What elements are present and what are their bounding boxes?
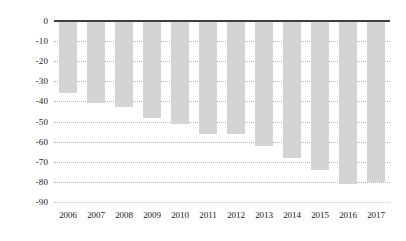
- x-axis-tick-label: 2013: [250, 210, 278, 220]
- y-axis-tick-label: -10: [0, 36, 48, 46]
- bar: [171, 21, 189, 124]
- y-axis-labels: 0-10-20-30-40-50-60-70-80-90: [0, 0, 48, 241]
- zero-axis-line: [54, 20, 390, 22]
- bar: [255, 21, 273, 146]
- x-axis-labels: 2006200720082009201020112012201320142015…: [54, 210, 390, 220]
- y-axis-tick-label: -40: [0, 96, 48, 106]
- bar-series: [54, 21, 390, 202]
- x-axis-tick-label: 2014: [278, 210, 306, 220]
- bar-slot: [362, 21, 390, 202]
- x-axis-tick-label: 2016: [334, 210, 362, 220]
- bar-slot: [138, 21, 166, 202]
- bar-slot: [82, 21, 110, 202]
- bar: [115, 21, 133, 107]
- bar-slot: [278, 21, 306, 202]
- bar: [143, 21, 161, 118]
- y-axis-tick-label: -90: [0, 197, 48, 207]
- bar: [227, 21, 245, 134]
- bar-slot: [194, 21, 222, 202]
- bar: [311, 21, 329, 170]
- bar: [199, 21, 217, 134]
- bar-slot: [166, 21, 194, 202]
- x-axis-tick-label: 2015: [306, 210, 334, 220]
- x-axis-tick-label: 2008: [110, 210, 138, 220]
- y-axis-tick-label: -60: [0, 137, 48, 147]
- y-axis-tick-label: -50: [0, 117, 48, 127]
- bar: [59, 21, 77, 93]
- bar-slot: [54, 21, 82, 202]
- bar-slot: [306, 21, 334, 202]
- bar: [339, 21, 357, 184]
- y-axis-tick-label: -70: [0, 157, 48, 167]
- x-axis-tick-label: 2009: [138, 210, 166, 220]
- x-axis-tick-label: 2011: [194, 210, 222, 220]
- bar: [283, 21, 301, 158]
- x-axis-tick-label: 2017: [362, 210, 390, 220]
- x-axis-tick-label: 2010: [166, 210, 194, 220]
- y-axis-tick-label: -80: [0, 177, 48, 187]
- y-axis-tick-label: 0: [0, 16, 48, 26]
- bar-chart: 0-10-20-30-40-50-60-70-80-90 20062007200…: [0, 0, 406, 241]
- bar-slot: [250, 21, 278, 202]
- bar: [367, 21, 385, 182]
- y-axis-tick-label: -20: [0, 56, 48, 66]
- bar-slot: [334, 21, 362, 202]
- x-axis-tick-label: 2006: [54, 210, 82, 220]
- y-axis-tick-label: -30: [0, 76, 48, 86]
- x-axis-tick-label: 2012: [222, 210, 250, 220]
- bar-slot: [110, 21, 138, 202]
- x-axis-tick-label: 2007: [82, 210, 110, 220]
- bottom-axis-line: [54, 202, 390, 203]
- bar-slot: [222, 21, 250, 202]
- bar: [87, 21, 105, 103]
